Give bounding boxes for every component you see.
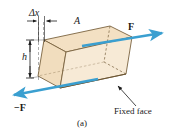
label-height-h: h	[22, 52, 27, 62]
shear-stress-figure: Δx h A F −F Fixed face (a)	[0, 0, 170, 134]
label-force-negative: −F	[14, 103, 26, 113]
label-force-positive: F	[128, 22, 134, 32]
figure-caption: (a)	[77, 119, 87, 128]
label-fixed-face: Fixed face	[114, 107, 152, 116]
label-delta-x: Δx	[29, 8, 39, 18]
label-area-a: A	[74, 16, 80, 26]
fixed-face-leader-line	[118, 86, 136, 106]
